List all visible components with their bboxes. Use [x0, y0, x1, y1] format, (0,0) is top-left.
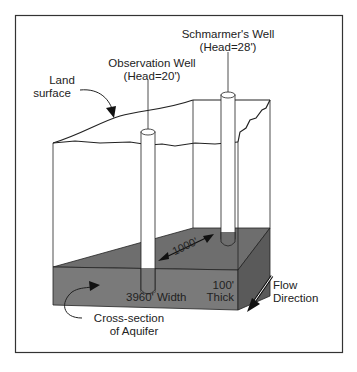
schmarmer-well-head: (Head=28')	[200, 41, 257, 53]
observation-well-name: Observation Well	[108, 57, 195, 69]
land-surface-arrow-icon	[80, 90, 116, 118]
width-label: 3960' Width	[126, 291, 186, 303]
thickness-label-line2: Thick	[207, 291, 235, 303]
land-surface-label-line2: surface	[33, 87, 71, 99]
observation-well-head: (Head=20')	[124, 70, 181, 82]
cross-section-label-line1: Cross-section	[94, 312, 164, 324]
flow-direction-label-line1: Flow	[273, 279, 298, 291]
schmarmer-well	[221, 52, 235, 246]
aquifer-diagram: 1000' Schmarmer's Well (Head=28') Observ…	[0, 0, 357, 372]
observation-well	[141, 80, 155, 294]
aquifer-top-face	[53, 228, 270, 270]
thickness-label-line1: 100'	[213, 279, 234, 291]
land-surface-label-line1: Land	[49, 74, 75, 86]
land-surface-back-line	[53, 100, 193, 143]
cross-section-label-line2: of Aquifer	[110, 325, 159, 337]
land-surface-right-edge	[238, 100, 270, 142]
flow-direction-label-line2: Direction	[273, 292, 318, 304]
schmarmer-well-name: Schmarmer's Well	[182, 28, 275, 40]
